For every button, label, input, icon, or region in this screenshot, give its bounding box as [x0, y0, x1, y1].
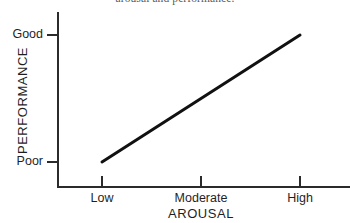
x-axis-tick-high: [299, 176, 301, 187]
x-axis-label-low: Low: [54, 191, 150, 205]
y-axis-tick-poor: [47, 161, 58, 163]
y-axis-title: PERFORMANCE: [15, 21, 30, 181]
x-axis-label-moderate: Moderate: [153, 191, 249, 205]
y-axis-tick-good: [47, 34, 58, 36]
data-series-line: [102, 35, 300, 162]
x-axis-tick-low: [101, 176, 103, 187]
x-axis-title: AROUSAL: [153, 206, 249, 221]
x-axis-tick-moderate: [200, 176, 202, 187]
x-axis-label-high: High: [252, 191, 348, 205]
line-graph-figure: arousal and performance. Good Poor Low M…: [0, 0, 350, 223]
caption-text-fragment: arousal and performance.: [0, 0, 350, 9]
